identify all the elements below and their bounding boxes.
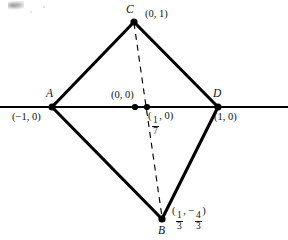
vertex-dot-C [130, 18, 137, 25]
fraction-numerator: 1 [176, 211, 183, 222]
vertex-dot-B [158, 215, 165, 222]
fraction-one-seventh: 17 [152, 116, 159, 137]
point-dot-origin [132, 104, 138, 110]
label-point-D: D [213, 88, 221, 100]
edge-C-D [134, 22, 218, 107]
label-coord-D: (1, 0) [214, 112, 237, 123]
fraction-numerator: 4 [195, 211, 202, 222]
vertex-dot-A [49, 104, 56, 111]
label-coord-one-seventh: (17, 0) [148, 111, 173, 137]
minus-sign: − [189, 205, 195, 216]
label-point-C: C [126, 4, 134, 16]
paren-close: ) [202, 205, 206, 216]
fraction-one-third: 13 [176, 211, 183, 232]
figure-canvas [0, 0, 288, 240]
vertex-dot-D [215, 104, 222, 111]
label-point-A: A [46, 88, 53, 100]
coord-rest: , 0) [159, 110, 173, 121]
label-coord-C: (0, 1) [145, 9, 168, 20]
paren-open: ( [148, 110, 152, 121]
fraction-denominator: 3 [176, 222, 183, 232]
coord-separator: , [183, 205, 186, 216]
fraction-four-thirds: 43 [195, 211, 202, 232]
label-point-B: B [158, 225, 165, 237]
label-coord-origin: (0, 0) [111, 90, 134, 101]
fraction-denominator: 7 [152, 127, 159, 137]
fraction-denominator: 3 [195, 222, 202, 232]
edge-B-A [52, 107, 162, 219]
paren-open: ( [172, 205, 176, 216]
label-coord-A: (−1, 0) [12, 112, 41, 123]
label-coord-B: (13, −43) [172, 206, 206, 232]
fraction-numerator: 1 [152, 116, 159, 127]
geometry-figure: C (0, 1) A (−1, 0) D (1, 0) (0, 0) (17, … [0, 0, 288, 240]
